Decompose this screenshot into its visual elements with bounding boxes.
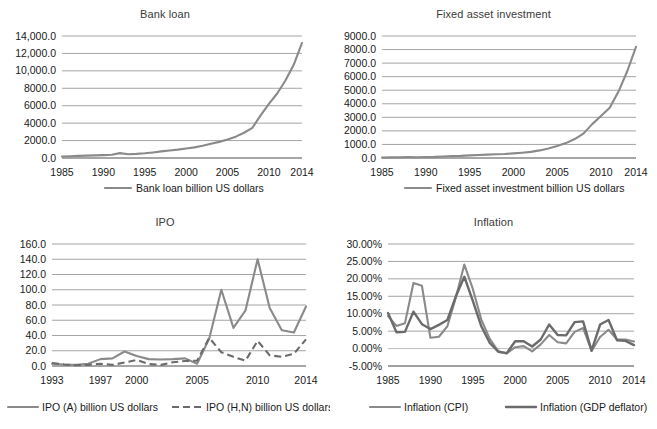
legend-label-1: IPO (H,N) billion US dollars bbox=[206, 401, 330, 413]
xtick-label: 2014 bbox=[290, 166, 314, 178]
xtick-label: 1990 bbox=[414, 166, 438, 178]
ytick-label: 60.0 bbox=[26, 314, 47, 326]
ytick-label: 2000.0 bbox=[24, 134, 56, 146]
legend-label-0: Bank loan billion US dollars bbox=[136, 182, 264, 194]
ytick-label: -5.00% bbox=[349, 360, 382, 372]
ytick-label: 4000.0 bbox=[24, 117, 56, 129]
chart-ipo: 0.020.040.060.080.0100.0120.0140.0160.01… bbox=[0, 212, 330, 429]
xtick-label: 2014 bbox=[624, 166, 648, 178]
xtick-label: 2014 bbox=[294, 374, 318, 386]
series-path-0 bbox=[388, 265, 634, 354]
ytick-label: 5.00% bbox=[352, 325, 382, 337]
chart-bank-loan: 0.02000.04000.06000.08000.010,000.012,00… bbox=[0, 0, 330, 212]
xtick-label: 1995 bbox=[461, 374, 485, 386]
xtick-label: 2010 bbox=[246, 374, 270, 386]
xtick-label: 2000 bbox=[174, 166, 198, 178]
ytick-label: 2000.0 bbox=[344, 124, 376, 136]
series-path-0 bbox=[62, 43, 302, 157]
ytick-label: 8000.0 bbox=[24, 82, 56, 94]
ytick-label: 8000.0 bbox=[344, 43, 376, 55]
ytick-label: 7000.0 bbox=[344, 57, 376, 69]
ytick-label: 6000.0 bbox=[344, 70, 376, 82]
ytick-label: 14,000.0 bbox=[15, 30, 56, 42]
ytick-label: 0.0 bbox=[41, 152, 56, 164]
legend-label-0: Fixed asset investment billion US dollar… bbox=[436, 182, 625, 194]
xtick-label: 2005 bbox=[545, 166, 569, 178]
ytick-label: 140.0 bbox=[20, 253, 46, 265]
ytick-label: 15.00% bbox=[346, 290, 382, 302]
ytick-label: 6000.0 bbox=[24, 99, 56, 111]
xtick-label: 1995 bbox=[458, 166, 482, 178]
ytick-label: 0.00% bbox=[352, 342, 382, 354]
series-path-1 bbox=[52, 338, 306, 365]
panel-bank-loan: Bank loan 0.02000.04000.06000.08000.010,… bbox=[0, 0, 330, 212]
ytick-label: 12,000.0 bbox=[15, 47, 56, 59]
ytick-label: 9000.0 bbox=[344, 30, 376, 42]
figure-grid: Bank loan 0.02000.04000.06000.08000.010,… bbox=[0, 0, 657, 429]
xtick-label: 2005 bbox=[546, 374, 570, 386]
xtick-label: 1985 bbox=[370, 166, 394, 178]
panel-ipo: IPO 0.020.040.060.080.0100.0120.0140.016… bbox=[0, 212, 330, 429]
ytick-label: 40.0 bbox=[26, 329, 47, 341]
legend-label-0: IPO (A) billion US dollars bbox=[42, 401, 158, 413]
legend-label-1: Inflation (GDP deflator) bbox=[540, 401, 647, 413]
ytick-label: 80.0 bbox=[26, 299, 47, 311]
ytick-label: 0.0 bbox=[31, 360, 46, 372]
xtick-label: 1990 bbox=[92, 166, 116, 178]
ytick-label: 30.00% bbox=[346, 238, 382, 250]
xtick-label: 2000 bbox=[504, 374, 528, 386]
ytick-label: 3000.0 bbox=[344, 111, 376, 123]
ytick-label: 25.00% bbox=[346, 255, 382, 267]
chart-inflation: -5.00%0.00%5.00%10.00%15.00%20.00%25.00%… bbox=[330, 212, 657, 429]
xtick-label: 1997 bbox=[89, 374, 113, 386]
xtick-label: 2005 bbox=[216, 166, 240, 178]
ytick-label: 10,000.0 bbox=[15, 64, 56, 76]
ytick-label: 120.0 bbox=[20, 268, 46, 280]
panel-fixed-asset: Fixed asset investment 0.01000.02000.030… bbox=[330, 0, 657, 212]
ytick-label: 1000.0 bbox=[344, 138, 376, 150]
xtick-label: 1995 bbox=[133, 166, 157, 178]
ytick-label: 160.0 bbox=[20, 238, 46, 250]
xtick-label: 2005 bbox=[185, 374, 209, 386]
xtick-label: 1985 bbox=[376, 374, 400, 386]
ytick-label: 4000.0 bbox=[344, 97, 376, 109]
ytick-label: 10.00% bbox=[346, 307, 382, 319]
legend-label-0: Inflation (CPI) bbox=[404, 401, 468, 413]
xtick-label: 2014 bbox=[622, 374, 646, 386]
chart-fixed-asset: 0.01000.02000.03000.04000.05000.06000.07… bbox=[330, 0, 657, 212]
chart-title-inflation: Inflation bbox=[330, 216, 657, 228]
xtick-label: 2000 bbox=[502, 166, 526, 178]
xtick-label: 1993 bbox=[40, 374, 64, 386]
panel-inflation: Inflation -5.00%0.00%5.00%10.00%15.00%20… bbox=[330, 212, 657, 429]
ytick-label: 20.00% bbox=[346, 272, 382, 284]
ytick-label: 100.0 bbox=[20, 283, 46, 295]
ytick-label: 5000.0 bbox=[344, 84, 376, 96]
xtick-label: 2010 bbox=[589, 166, 613, 178]
xtick-label: 2010 bbox=[588, 374, 612, 386]
ytick-label: 0.0 bbox=[361, 152, 376, 164]
xtick-label: 2000 bbox=[125, 374, 149, 386]
chart-title-bank-loan: Bank loan bbox=[0, 8, 330, 20]
xtick-label: 1990 bbox=[419, 374, 443, 386]
chart-title-fixed-asset: Fixed asset investment bbox=[330, 8, 657, 20]
ytick-label: 20.0 bbox=[26, 344, 47, 356]
series-path-0 bbox=[52, 259, 306, 365]
chart-title-ipo: IPO bbox=[0, 216, 330, 228]
xtick-label: 1985 bbox=[50, 166, 74, 178]
xtick-label: 2010 bbox=[257, 166, 281, 178]
